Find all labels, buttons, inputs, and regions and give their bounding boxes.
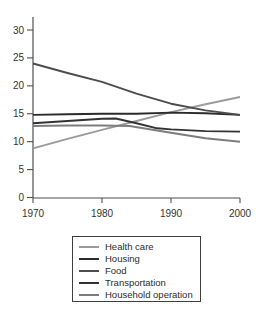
legend-item-housing: Housing [79, 253, 200, 265]
legend-item-food: Food [79, 265, 200, 277]
y-tick-label: 30 [13, 25, 25, 36]
chart-figure: 0510152025301970198019902000 Health care… [0, 0, 259, 310]
expenditure-line-chart: 0510152025301970198019902000 [0, 0, 259, 232]
x-tick-label: 2000 [229, 208, 252, 219]
legend-label: Food [105, 265, 127, 277]
y-tick-label: 15 [13, 108, 25, 119]
x-tick-label: 1980 [91, 208, 114, 219]
legend-line-swatch [79, 258, 99, 260]
y-tick-label: 25 [13, 52, 25, 63]
legend-label: Health care [105, 241, 154, 253]
legend-line-swatch [79, 282, 99, 284]
series-line-food [33, 64, 240, 115]
x-tick-label: 1970 [22, 208, 45, 219]
y-tick-label: 0 [18, 192, 24, 203]
y-tick-label: 20 [13, 80, 25, 91]
series-line-housing [33, 113, 240, 115]
legend-label: Transportation [105, 277, 166, 289]
legend-line-swatch [79, 270, 99, 272]
x-tick-label: 1990 [160, 208, 183, 219]
legend-line-swatch [79, 246, 99, 248]
legend-item-transportation: Transportation [79, 277, 200, 289]
legend-label: Housing [105, 253, 140, 265]
y-tick-label: 10 [13, 136, 25, 147]
legend-label: Household operation [105, 289, 193, 301]
legend-item-health-care: Health care [79, 241, 200, 253]
y-tick-label: 5 [18, 164, 24, 175]
legend: Health careHousingFoodTransportationHous… [72, 236, 201, 302]
legend-line-swatch [79, 294, 99, 296]
legend-item-household-operation: Household operation [79, 289, 200, 301]
